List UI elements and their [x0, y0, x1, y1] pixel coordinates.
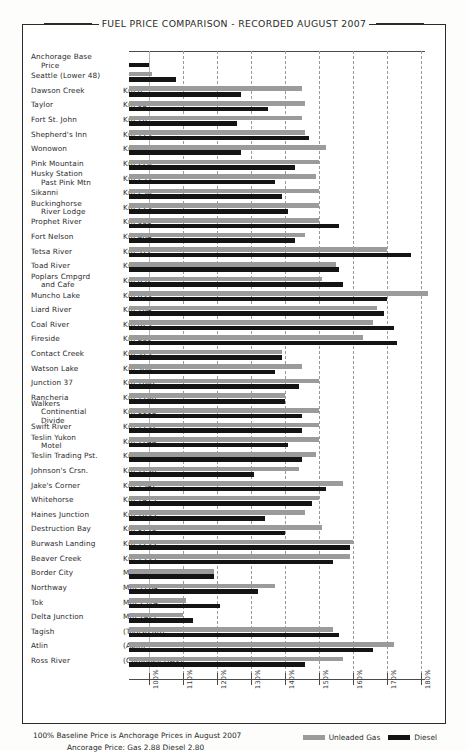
- bar-unleaded-gas: [129, 584, 275, 589]
- bar-diesel: [129, 121, 238, 126]
- row-label: Teslin Trading Pst.: [31, 451, 98, 460]
- bar-diesel: [129, 472, 255, 477]
- bar-unleaded-gas: [129, 233, 306, 238]
- row-label: Fort Nelson: [31, 232, 74, 241]
- bar-diesel: [129, 604, 221, 609]
- bar-diesel: [129, 574, 214, 579]
- row-label: Beaver Creek: [31, 554, 81, 563]
- row-label: Motel: [41, 441, 62, 450]
- bar-unleaded-gas: [129, 306, 377, 311]
- bar-diesel: [129, 662, 306, 667]
- bar-diesel: [129, 267, 340, 272]
- bar-unleaded-gas: [129, 452, 316, 457]
- bar-diesel: [129, 150, 241, 155]
- bar-unleaded-gas: [129, 379, 319, 384]
- bar-diesel: [129, 414, 302, 419]
- row-label: River Lodge: [41, 207, 85, 216]
- legend-item-diesel: Diesel: [388, 733, 437, 742]
- row-label: Sikanni: [31, 188, 58, 197]
- row-label: Toad River: [31, 261, 70, 270]
- axis-top-line: [129, 51, 425, 52]
- row-label: Haines Junction: [31, 510, 89, 519]
- tick-150%: [319, 673, 320, 685]
- bar-unleaded-gas: [129, 627, 333, 632]
- bar-diesel: [129, 457, 302, 462]
- bar-diesel: [129, 253, 411, 258]
- bar-unleaded-gas: [129, 101, 306, 106]
- bar-diesel: [129, 63, 149, 68]
- bar-diesel: [129, 180, 275, 185]
- bar-unleaded-gas: [129, 554, 350, 559]
- row-label: Junction 37: [31, 378, 73, 387]
- row-label: Delta Junction: [31, 612, 84, 621]
- bar-unleaded-gas: [129, 72, 153, 77]
- tick-180%: [421, 673, 422, 685]
- bar-unleaded-gas: [129, 569, 214, 574]
- bar-unleaded-gas: [129, 277, 323, 282]
- row-label: Northway: [31, 583, 67, 592]
- bar-unleaded-gas: [129, 408, 319, 413]
- bar-unleaded-gas: [129, 540, 353, 545]
- tick-130%: [251, 673, 252, 685]
- tick-120%: [217, 673, 218, 685]
- tick-label-160%: 160%: [356, 669, 364, 689]
- bar-unleaded-gas: [129, 525, 323, 530]
- bar-diesel: [129, 545, 350, 550]
- legend-swatch-gas-icon: [303, 735, 325, 740]
- row-label: Wonowon: [31, 144, 67, 153]
- row-label: Jake's Corner: [31, 481, 80, 490]
- bar-diesel: [129, 531, 285, 536]
- bar-unleaded-gas: [129, 657, 343, 662]
- bar-unleaded-gas: [129, 130, 306, 135]
- bar-diesel: [129, 107, 268, 112]
- plot-canvas: 100%110%120%130%140%150%160%170%180% Anc…: [23, 25, 447, 725]
- row-label: Tok: [31, 598, 43, 607]
- bar-unleaded-gas: [129, 350, 282, 355]
- tick-label-110%: 110%: [186, 669, 194, 689]
- bar-unleaded-gas: [129, 320, 374, 325]
- bar-unleaded-gas: [129, 496, 319, 501]
- tick-100%: [149, 673, 150, 685]
- bar-diesel: [129, 648, 374, 653]
- bar-unleaded-gas: [129, 291, 428, 296]
- bar-diesel: [129, 136, 309, 141]
- bar-diesel: [129, 297, 387, 302]
- legend-swatch-diesel-icon: [388, 735, 410, 740]
- row-label: Fort St. John: [31, 115, 77, 124]
- bar-diesel: [129, 194, 282, 199]
- row-label: Contact Creek: [31, 349, 84, 358]
- tick-label-150%: 150%: [322, 669, 330, 689]
- bar-unleaded-gas: [129, 437, 319, 442]
- row-label: and Cafe: [41, 280, 74, 289]
- row-label: Swift River: [31, 422, 71, 431]
- bar-unleaded-gas: [129, 642, 394, 647]
- row-label: Atlin: [31, 641, 48, 650]
- bar-unleaded-gas: [129, 335, 364, 340]
- bar-unleaded-gas: [129, 189, 319, 194]
- gridline-170%: [387, 51, 388, 679]
- bar-diesel: [129, 209, 289, 214]
- bar-diesel: [129, 560, 333, 565]
- bar-diesel: [129, 501, 313, 506]
- tick-label-100%: 100%: [152, 669, 160, 689]
- bar-unleaded-gas: [129, 86, 302, 91]
- bar-diesel: [129, 282, 343, 287]
- row-label: Watson Lake: [31, 364, 78, 373]
- row-label: Prophet River: [31, 217, 82, 226]
- gridline-180%: [421, 51, 422, 679]
- bar-unleaded-gas: [129, 203, 319, 208]
- bar-diesel: [129, 487, 326, 492]
- bar-diesel: [129, 77, 177, 82]
- tick-110%: [183, 673, 184, 685]
- bar-diesel: [129, 516, 265, 521]
- row-label: Burwash Landing: [31, 539, 95, 548]
- tick-140%: [285, 673, 286, 685]
- bar-diesel: [129, 384, 299, 389]
- bar-unleaded-gas: [129, 218, 319, 223]
- row-label: Fireside: [31, 334, 60, 343]
- bar-diesel: [129, 618, 194, 623]
- row-label: Pink Mountain: [31, 159, 84, 168]
- tick-label-140%: 140%: [288, 669, 296, 689]
- tick-160%: [353, 673, 354, 685]
- legend-item-gas: Unleaded Gas: [303, 733, 381, 742]
